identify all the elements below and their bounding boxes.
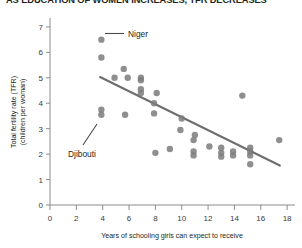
x-tick-label: 0 [48,214,53,223]
data-point [138,90,144,96]
data-point [122,111,128,117]
x-tick-label: 2 [74,214,79,223]
data-point [177,127,183,133]
data-point [111,75,117,81]
data-point [206,143,212,149]
y-tick-label: 6 [39,48,44,57]
niger-label: Niger [128,29,148,39]
y-tick-label: 7 [39,23,44,32]
y-axis-title-line2: (children per woman) [19,79,27,146]
data-point [121,66,127,72]
data-point [276,137,282,143]
data-points [98,36,282,167]
data-point [151,100,157,106]
y-tick-label: 5 [39,74,44,83]
data-point [179,115,185,121]
x-tick-label: 10 [177,214,186,223]
x-tick-label: 8 [153,214,158,223]
x-tick-label: 14 [230,214,239,223]
x-tick-label: 6 [127,214,132,223]
data-point [218,153,224,159]
scatter-plot: 01234567 Total fertility rate (TFR) (chi… [0,0,302,248]
x-axis-ticks [50,205,287,210]
data-point [153,90,159,96]
data-point [98,111,104,117]
chart-figure: AS EDUCATION OF WOMEN INCREASES, TFR DEC… [0,0,302,248]
data-point [98,54,104,60]
y-tick-label: 4 [39,99,44,108]
x-tick-label: 12 [204,214,213,223]
djibouti-leader-line [83,124,97,145]
data-point [138,77,144,83]
y-tick-label: 1 [39,176,44,185]
data-point [230,152,236,158]
data-point [167,146,173,152]
y-axis: 01234567 Total fertility rate (TFR) (chi… [10,18,50,210]
data-point [190,137,196,143]
djibouti-label: Djibouti [68,149,96,159]
data-point [151,110,157,116]
x-tick-label: 4 [100,214,105,223]
data-point [125,75,131,81]
x-tick-label: 16 [256,214,265,223]
data-point [247,152,253,158]
y-tick-label: 0 [39,201,44,210]
x-axis: 024681012141618 Years of schooling girls… [48,205,295,240]
y-tick-label: 3 [39,125,44,134]
y-axis-title-line1: Total fertility rate (TFR) [10,76,18,148]
data-point [190,152,196,158]
data-point [247,161,253,167]
data-point [98,36,104,42]
y-axis-tick-labels: 01234567 [39,23,44,210]
x-tick-label: 18 [283,214,292,223]
data-point [239,92,245,98]
x-axis-tick-labels: 024681012141618 [48,214,292,223]
x-axis-title: Years of schooling girls can expect to r… [101,232,243,240]
data-point [152,150,158,156]
y-axis-ticks [46,27,50,205]
y-tick-label: 2 [39,150,44,159]
